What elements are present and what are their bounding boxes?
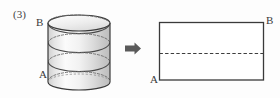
rectangle-outline xyxy=(160,23,264,81)
rectangle-point-b-label: B xyxy=(266,15,273,26)
figure-canvas xyxy=(0,0,280,98)
right-arrow-icon xyxy=(125,43,141,55)
unrolled-rectangle xyxy=(160,23,264,81)
cylinder-shape xyxy=(48,14,110,90)
rectangle-point-a-label: A xyxy=(150,74,158,85)
cylinder-top-cap xyxy=(48,15,110,31)
cylinder-point-b-label: B xyxy=(36,17,43,28)
cylinder-point-a-label: A xyxy=(39,69,47,80)
geometry-figure: (3) B A B A xyxy=(0,0,280,98)
item-number-label: (3) xyxy=(13,9,26,20)
